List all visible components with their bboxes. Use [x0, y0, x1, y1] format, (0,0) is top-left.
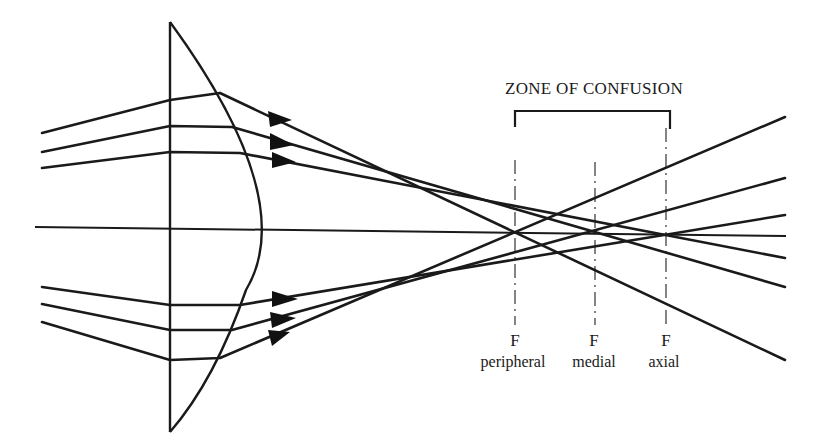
- zone-bracket: [515, 111, 670, 129]
- arrow-icon: [272, 291, 298, 307]
- arrow-icon: [272, 152, 296, 168]
- focus-letter-axial: F: [661, 331, 670, 350]
- ray-upper-inner: [42, 152, 785, 258]
- lens-curved-surface: [170, 22, 262, 432]
- spherical-aberration-diagram: ZONE OF CONFUSION F peripheral F medial …: [0, 0, 822, 448]
- ray-upper-outer: [42, 93, 785, 360]
- focus-name-axial: axial: [648, 353, 680, 370]
- focal-labels: F peripheral F medial F axial: [481, 331, 681, 371]
- ray-arrowheads: [268, 111, 298, 346]
- ray-upper-middle: [42, 126, 785, 287]
- arrow-icon: [268, 330, 290, 346]
- arrow-icon: [270, 133, 294, 150]
- focus-name-peripheral: peripheral: [481, 353, 546, 371]
- focus-name-medial: medial: [572, 353, 616, 370]
- zone-of-confusion-title: ZONE OF CONFUSION: [505, 79, 683, 98]
- plano-convex-lens: [170, 22, 262, 432]
- focal-markers: [515, 128, 666, 325]
- focus-letter-medial: F: [589, 331, 598, 350]
- focus-letter-peripheral: F: [510, 331, 519, 350]
- upper-rays: [42, 93, 785, 360]
